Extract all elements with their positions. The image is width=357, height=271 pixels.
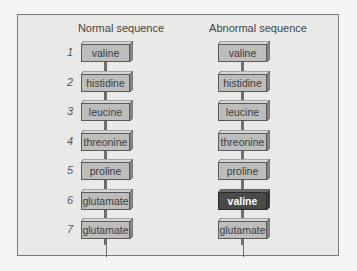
amino-acid-box: proline (218, 159, 270, 179)
amino-acid-label: valine (218, 44, 267, 62)
amino-acid-box: glutamate (81, 218, 133, 238)
mutated-amino-acid-box: valine (218, 189, 270, 209)
amino-acid-box: histidine (218, 71, 270, 91)
amino-acid-label: glutamate (81, 221, 130, 239)
normal-chain-tail (106, 243, 107, 257)
amino-acid-label: threonine (81, 133, 130, 151)
amino-acid-box: leucine (81, 100, 133, 120)
amino-acid-label: valine (81, 44, 130, 62)
amino-acid-label: threonine (218, 133, 267, 151)
position-number: 6 (61, 194, 73, 206)
position-number: 4 (61, 135, 73, 147)
position-number: 1 (61, 46, 73, 58)
amino-acid-box: valine (218, 41, 270, 61)
amino-acid-label: leucine (218, 103, 267, 121)
abnormal-sequence-title: Abnormal sequence (188, 22, 328, 34)
amino-acid-box: threonine (81, 130, 133, 150)
normal-sequence-title: Normal sequence (51, 22, 191, 34)
amino-acid-label: histidine (218, 74, 267, 92)
position-number: 3 (61, 105, 73, 117)
amino-acid-box: leucine (218, 100, 270, 120)
amino-acid-label: valine (218, 192, 267, 210)
amino-acid-box: threonine (218, 130, 270, 150)
amino-acid-label: histidine (81, 74, 130, 92)
amino-acid-box: histidine (81, 71, 133, 91)
amino-acid-label: glutamate (218, 221, 267, 239)
amino-acid-box: valine (81, 41, 133, 61)
position-number: 2 (61, 76, 73, 88)
amino-acid-box: glutamate (218, 218, 270, 238)
amino-acid-label: proline (218, 162, 267, 180)
abnormal-chain-tail (243, 243, 244, 257)
amino-acid-label: proline (81, 162, 130, 180)
amino-acid-label: glutamate (81, 192, 130, 210)
amino-acid-label: leucine (81, 103, 130, 121)
amino-acid-box: glutamate (81, 189, 133, 209)
position-number: 5 (61, 164, 73, 176)
amino-acid-box: proline (81, 159, 133, 179)
position-number: 7 (61, 223, 73, 235)
